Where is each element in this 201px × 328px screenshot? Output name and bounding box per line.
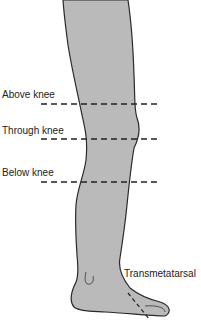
label-below-knee: Below knee — [2, 167, 54, 178]
label-through-knee: Through knee — [2, 125, 64, 136]
label-above-knee: Above knee — [2, 89, 55, 100]
label-transmetatarsal: Transmetatarsal — [124, 268, 196, 279]
